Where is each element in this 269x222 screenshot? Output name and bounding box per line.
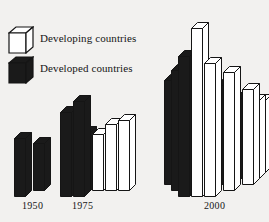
bar-2000-developing-c5r1 bbox=[223, 66, 242, 192]
bar-1950-developed-c0r0 bbox=[14, 132, 33, 198]
bar-2000-developing-c4r0 bbox=[204, 57, 223, 198]
legend-label-developed: Developed countries bbox=[40, 62, 133, 74]
bar-1950-developed-c1r1 bbox=[33, 137, 52, 192]
bar-1975-developed-c1r0 bbox=[73, 95, 92, 198]
isometric-bar-chart: Developing countries Developed countries… bbox=[0, 0, 269, 222]
bar-2000-developing-c6r2 bbox=[242, 83, 261, 186]
legend-label-developing: Developing countries bbox=[40, 32, 136, 44]
group-label-2000: 2000 bbox=[204, 200, 225, 211]
black-cube-icon bbox=[8, 56, 34, 84]
group-label-1950: 1950 bbox=[22, 200, 43, 211]
group-label-1975: 1975 bbox=[72, 200, 93, 211]
white-cube-icon bbox=[8, 26, 34, 54]
bar-1975-developing-c4r1 bbox=[118, 114, 137, 192]
